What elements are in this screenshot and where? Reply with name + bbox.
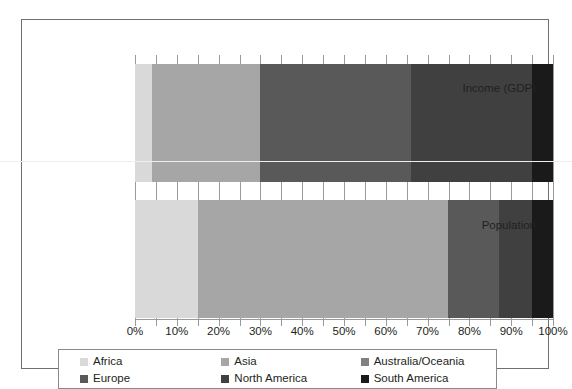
chart-legend: AfricaAsiaAustralia/OceaniaEuropeNorth A… <box>58 349 497 389</box>
scan-artifact-line <box>0 161 572 162</box>
chart-frame: Income (GDP) Population 0%10%20%30%40%50… <box>21 19 549 369</box>
legend-item-australia-oceania[interactable]: Australia/Oceania <box>361 353 496 370</box>
plot-area <box>135 55 553 319</box>
x-tick-label-30: 30% <box>249 326 272 338</box>
legend-label: South America <box>374 373 449 385</box>
category-label-income: Income (GDP) <box>463 83 537 95</box>
x-tick-label-80: 80% <box>458 326 481 338</box>
legend-item-asia[interactable]: Asia <box>221 353 360 370</box>
legend-swatch-icon <box>221 358 229 366</box>
x-tick-label-60: 60% <box>374 326 397 338</box>
legend-label: Europe <box>93 373 130 385</box>
legend-item-north-america[interactable]: North America <box>221 370 360 387</box>
legend-label: Africa <box>93 356 122 368</box>
legend-row: EuropeNorth AmericaSouth America <box>59 370 496 387</box>
x-tick-label-20: 20% <box>207 326 230 338</box>
bar-segment[interactable] <box>135 200 198 318</box>
x-tick-label-90: 90% <box>500 326 523 338</box>
legend-item-africa[interactable]: Africa <box>59 353 221 370</box>
legend-item-europe[interactable]: Europe <box>59 370 221 387</box>
x-tick-label-100: 100% <box>538 326 567 338</box>
legend-swatch-icon <box>361 375 369 383</box>
category-label-population: Population <box>482 220 536 232</box>
legend-row: AfricaAsiaAustralia/Oceania <box>59 353 496 370</box>
x-tick-label-70: 70% <box>416 326 439 338</box>
legend-swatch-icon <box>361 358 369 366</box>
x-tick-label-50: 50% <box>332 326 355 338</box>
bar-segment[interactable] <box>198 200 449 318</box>
legend-label: Australia/Oceania <box>374 356 465 368</box>
bar-segment[interactable] <box>499 200 532 318</box>
legend-swatch-icon <box>80 358 88 366</box>
bar-segment[interactable] <box>448 200 498 318</box>
legend-swatch-icon <box>80 375 88 383</box>
bar-segment[interactable] <box>152 64 261 182</box>
legend-item-south-america[interactable]: South America <box>361 370 496 387</box>
legend-label: Asia <box>234 356 256 368</box>
bar-segment[interactable] <box>532 200 553 318</box>
x-tick-label-40: 40% <box>291 326 314 338</box>
legend-swatch-icon <box>221 375 229 383</box>
bar-segment[interactable] <box>135 64 152 182</box>
x-tick-label-10: 10% <box>165 326 188 338</box>
bar-segment[interactable] <box>260 64 410 182</box>
x-tick-label-0: 0% <box>127 326 144 338</box>
legend-label: North America <box>234 373 307 385</box>
bar-row <box>135 200 553 318</box>
axis-tick-100 <box>553 55 554 326</box>
